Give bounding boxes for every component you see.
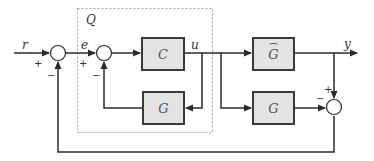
sum-junction-3 <box>327 100 342 115</box>
controller-block: C <box>141 37 185 71</box>
sum3-sign-minus: − <box>316 94 324 104</box>
sum-junction-2 <box>97 46 112 61</box>
signal-label-y: y <box>344 38 351 50</box>
group-label-q: Q <box>86 14 96 26</box>
inner-model-block: G <box>142 91 185 125</box>
inner-model-label: G <box>158 101 168 116</box>
plant-block: G <box>252 37 295 71</box>
sum2-sign-plus: + <box>79 59 87 69</box>
outer-model-label: G <box>268 101 278 116</box>
signal-label-r: r <box>22 39 28 51</box>
signal-label-u: u <box>191 39 199 51</box>
sum1-sign-minus: − <box>47 71 55 81</box>
sum1-sign-plus: + <box>34 59 42 69</box>
block-diagram: C G G G Q r e u y + − + − + − <box>0 0 374 161</box>
diagram-wires <box>0 0 374 161</box>
sum-junction-1 <box>51 46 66 61</box>
sum2-sign-minus: − <box>92 71 100 81</box>
outer-model-block: G <box>252 91 295 125</box>
sum3-sign-plus: + <box>324 85 332 95</box>
plant-label: G <box>268 47 278 62</box>
signal-label-e: e <box>81 39 88 51</box>
controller-label: C <box>158 47 168 62</box>
